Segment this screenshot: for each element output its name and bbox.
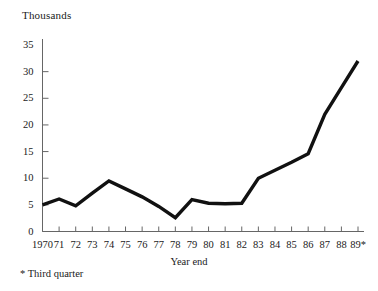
x-tick-label: 76 xyxy=(137,240,148,251)
y-tick-label: 25 xyxy=(10,93,34,104)
x-tick-label: 88 xyxy=(336,240,347,251)
x-tick-label: 75 xyxy=(120,240,131,251)
x-axis-title: Year end xyxy=(0,256,378,267)
x-tick-label: 89* xyxy=(350,240,366,251)
data-series-line xyxy=(43,61,359,218)
line-chart: Thousands 05101520253035 197071727374757… xyxy=(0,0,378,291)
y-tick-label: 30 xyxy=(10,67,34,78)
x-tick-label: 1970 xyxy=(32,240,53,251)
x-tick-label: 87 xyxy=(320,240,331,251)
x-tick-label: 78 xyxy=(170,240,181,251)
y-tick-label: 35 xyxy=(10,40,34,51)
x-tick-label: 72 xyxy=(70,240,81,251)
x-tick-label: 77 xyxy=(153,240,164,251)
y-tick-label: 15 xyxy=(10,147,34,158)
x-tick-label: 82 xyxy=(237,240,248,251)
y-tick-label: 20 xyxy=(10,120,34,131)
chart-footnote: * Third quarter xyxy=(20,268,83,279)
x-tick-label: 84 xyxy=(270,240,281,251)
y-tick-label: 0 xyxy=(10,227,34,238)
x-tick-label: 83 xyxy=(253,240,264,251)
x-tick-label: 80 xyxy=(203,240,214,251)
y-tick-label: 10 xyxy=(10,173,34,184)
x-tick-label: 81 xyxy=(220,240,231,251)
x-tick-label: 71 xyxy=(54,240,65,251)
x-tick-label: 73 xyxy=(87,240,98,251)
x-tick-label: 85 xyxy=(286,240,297,251)
x-tick-label: 74 xyxy=(104,240,115,251)
x-tick-label: 79 xyxy=(187,240,198,251)
y-tick-label: 5 xyxy=(10,200,34,211)
x-tick-label: 86 xyxy=(303,240,314,251)
